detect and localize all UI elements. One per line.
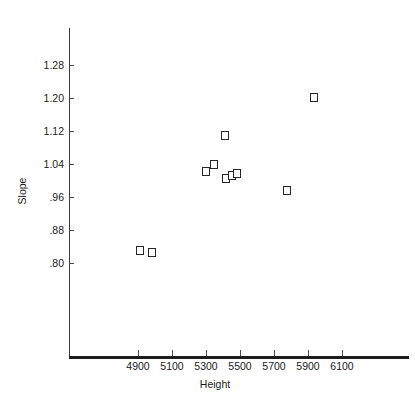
data-point-marker <box>202 167 210 176</box>
data-point-marker <box>210 160 218 169</box>
data-point-marker <box>233 169 241 178</box>
data-point-marker <box>283 186 291 195</box>
data-point-marker <box>136 246 144 255</box>
data-point-marker <box>221 131 229 140</box>
data-point-marker <box>310 93 318 102</box>
plot-data-area <box>0 0 415 412</box>
data-point-marker <box>148 248 156 257</box>
scatter-plot-figure: .80.88.961.041.121.201.28 49005100530055… <box>0 0 415 412</box>
